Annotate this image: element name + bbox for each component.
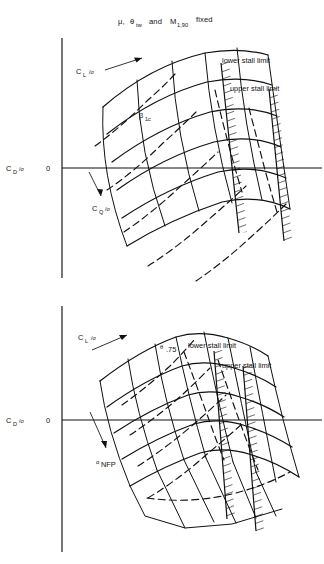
alpha-nfp-label-main: α: [96, 459, 100, 465]
beta1c-label-main: β: [139, 111, 143, 120]
theta75-label: θ .75: [160, 344, 176, 354]
cq-label-slash: /σ: [105, 206, 111, 212]
y-axis-label: C L /σ: [76, 58, 142, 79]
y-axis-label-main: C: [78, 333, 84, 342]
origin-label: 0: [46, 416, 50, 425]
y-axis-label: C L /σ: [78, 333, 127, 350]
x-axis-label: C D /σ: [6, 416, 25, 427]
upper-stall-limit-label: upper stall limit: [230, 84, 279, 93]
origin-label: 0: [46, 164, 50, 173]
x-axis-label-slash: /σ: [19, 166, 25, 172]
carpet-mesh-rows: [100, 334, 299, 486]
iso-lines-beta1c: [95, 73, 286, 281]
x-axis-label-main: C: [6, 164, 12, 173]
cq-label-main: C: [92, 204, 98, 213]
theta75-label-sub: .75: [166, 345, 176, 354]
bottom-carpet-chart: 0 C D /σ C L /σ: [0, 290, 324, 564]
x-axis-label-sub: D: [13, 421, 17, 427]
x-axis-label-sub: D: [13, 169, 17, 175]
lower-stall-limit-label: lower stall limit: [188, 341, 236, 350]
alpha-nfp-label-sub: NFP: [101, 460, 116, 469]
lower-stall-limit-line: [214, 351, 227, 519]
x-axis-label-slash: /σ: [19, 418, 25, 424]
upper-stall-limit-label: upper stall limit: [222, 361, 271, 370]
theta75-label-main: θ: [160, 344, 163, 350]
cq-label-group: C Q /σ: [89, 172, 111, 215]
carpet-mesh-columns: [103, 48, 290, 246]
y-axis-label-sub: L: [83, 72, 86, 78]
top-carpet-chart: 0 C D /σ C L /σ: [0, 0, 324, 290]
upper-stall-limit-line: [243, 366, 256, 531]
iso-lines-beta1c-secondary: [215, 90, 277, 212]
y-axis-label-sub: L: [85, 338, 88, 344]
cq-label-sub: Q: [99, 209, 104, 215]
figure-page: μ, θ tw and M 1,90 fixed: [0, 0, 324, 564]
carpet-mesh-rows: [103, 50, 290, 246]
x-axis-label-main: C: [6, 416, 12, 425]
y-axis-label-slash: /σ: [91, 335, 97, 341]
beta1c-label: β 1c: [139, 111, 151, 122]
y-axis-label-main: C: [76, 67, 82, 76]
y-axis-label-slash: /σ: [89, 69, 95, 75]
upper-stall-limit-hatching: [262, 78, 306, 240]
upper-stall-limit-boundary: [262, 78, 306, 241]
x-axis-label: C D /σ: [6, 164, 25, 175]
beta1c-label-sub: 1c: [145, 116, 151, 122]
alpha-nfp-arrow-head: [101, 441, 107, 448]
lower-stall-limit-label: lower stall limit: [222, 56, 270, 65]
